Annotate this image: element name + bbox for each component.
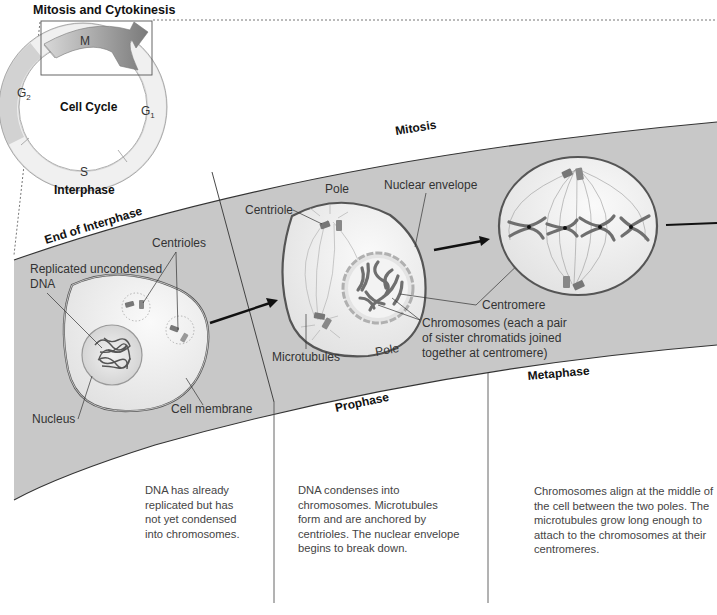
stage-label-metaphase: Metaphase [527, 364, 590, 383]
description-end-of-interphase: DNA has already replicated but has not y… [145, 483, 275, 541]
label-chromosomes-line3: together at centromere) [422, 346, 547, 360]
label-replicated-dna-line1: Replicated uncondensed [30, 262, 162, 276]
label-replicated-dna-line2: DNA [30, 277, 55, 291]
diagram-title: Mitosis and Cytokinesis [33, 3, 175, 17]
interphase-cell [64, 275, 208, 411]
label-nuclear-envelope: Nuclear envelope [384, 178, 478, 192]
cell-cycle-ring: M G1 S G2 Cell Cycle [0, 21, 167, 191]
phase-label-m: M [80, 34, 90, 48]
label-centriole: Centriole [245, 203, 293, 217]
label-cell-membrane: Cell membrane [171, 402, 253, 416]
label-centromere: Centromere [482, 298, 546, 312]
label-chromosomes-line2: of sister chromatids joined [422, 331, 561, 345]
label-pole-top: Pole [325, 182, 349, 196]
mitosis-label: Mitosis [394, 118, 437, 138]
cell-cycle-center-label: Cell Cycle [60, 100, 118, 114]
metaphase-cell [499, 157, 657, 295]
phase-label-s: S [80, 165, 88, 179]
description-metaphase: Chromosomes align at the middle of the c… [534, 484, 717, 557]
interphase-label: Interphase [54, 183, 115, 197]
label-nucleus: Nucleus [32, 412, 75, 426]
label-microtubules: Microtubules [272, 350, 340, 364]
label-centrioles: Centrioles [152, 236, 206, 250]
label-chromosomes-line1: Chromosomes (each a pair [422, 316, 567, 330]
nucleus [82, 325, 142, 385]
description-prophase: DNA condenses into chromosomes. Microtub… [298, 483, 468, 556]
